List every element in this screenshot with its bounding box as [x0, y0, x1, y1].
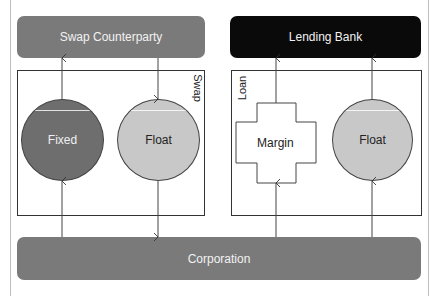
connector-layer — [0, 0, 437, 296]
margin-label: Margin — [257, 136, 294, 150]
